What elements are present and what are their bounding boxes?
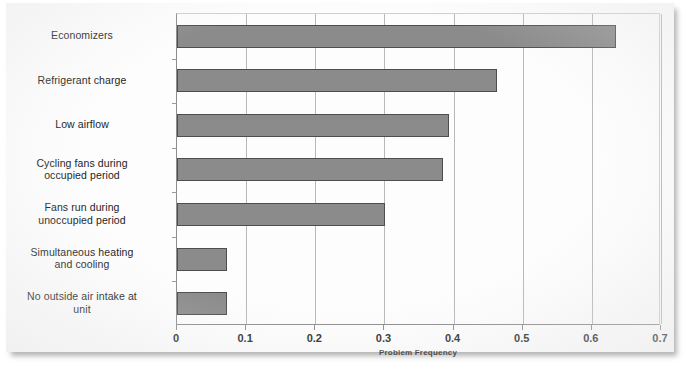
x-axis-tick-label: 0.5: [514, 332, 529, 344]
bar: [177, 248, 227, 271]
y-axis-tick: [172, 281, 177, 282]
x-axis-tick: [660, 325, 661, 330]
category-label-line: Cycling fans during: [2, 157, 162, 170]
gridline-0.7: [661, 14, 662, 324]
bar-row: [177, 59, 659, 104]
y-axis-tick: [172, 103, 177, 104]
category-axis-labels: EconomizersRefrigerant chargeLow airflow…: [6, 13, 170, 325]
y-axis-tick: [172, 148, 177, 149]
x-axis-tick-label: 0.3: [376, 332, 391, 344]
x-axis-tick-label: 0.4: [445, 332, 460, 344]
category-label-5: Simultaneous heatingand cooling: [2, 246, 162, 271]
category-label-line: Economizers: [2, 29, 162, 42]
x-axis-tick-label: 0: [173, 332, 179, 344]
category-label-line: Low airflow: [2, 118, 162, 131]
x-axis-tick-label: 0.1: [237, 332, 252, 344]
x-axis-tick-label: 0.6: [583, 332, 598, 344]
category-label-6: No outside air intake atunit: [2, 290, 162, 315]
y-axis-tick: [172, 237, 177, 238]
bar-row: [177, 103, 659, 148]
x-axis-title: Problem Frequency: [176, 348, 660, 357]
category-label-line: No outside air intake at: [2, 290, 162, 303]
category-label-line: Refrigerant charge: [2, 74, 162, 87]
bar: [177, 292, 227, 315]
plot-area: [176, 13, 660, 325]
x-axis-tick: [176, 325, 177, 330]
x-axis-tick: [245, 325, 246, 330]
y-axis-tick: [172, 59, 177, 60]
bar: [177, 69, 497, 92]
category-label-4: Fans run duringunoccupied period: [2, 201, 162, 226]
category-label-2: Low airflow: [2, 118, 162, 131]
bar-row: [177, 237, 659, 282]
bar-chart-figure: EconomizersRefrigerant chargeLow airflow…: [6, 3, 674, 352]
x-axis-tick: [522, 325, 523, 330]
category-label-1: Refrigerant charge: [2, 74, 162, 87]
category-label-line: occupied period: [2, 169, 162, 182]
bar-row: [177, 281, 659, 326]
category-label-line: and cooling: [2, 258, 162, 271]
scanned-page: EconomizersRefrigerant chargeLow airflow…: [6, 3, 674, 352]
category-label-0: Economizers: [2, 29, 162, 42]
x-axis-tick: [453, 325, 454, 330]
bar-row: [177, 14, 659, 59]
x-axis-tick-label: 0.2: [307, 332, 322, 344]
bar: [177, 114, 449, 137]
category-label-line: unit: [2, 303, 162, 316]
bar-row: [177, 192, 659, 237]
category-label-line: Fans run during: [2, 201, 162, 214]
bar: [177, 25, 616, 48]
category-label-line: unoccupied period: [2, 214, 162, 227]
x-axis-tick: [383, 325, 384, 330]
x-axis-tick-label: 0.7: [652, 332, 667, 344]
category-label-3: Cycling fans duringoccupied period: [2, 157, 162, 182]
bar: [177, 203, 385, 226]
bar-row: [177, 148, 659, 193]
bar: [177, 158, 443, 181]
x-axis-tick: [591, 325, 592, 330]
y-axis-tick: [172, 192, 177, 193]
x-axis-tick: [314, 325, 315, 330]
category-label-line: Simultaneous heating: [2, 246, 162, 259]
